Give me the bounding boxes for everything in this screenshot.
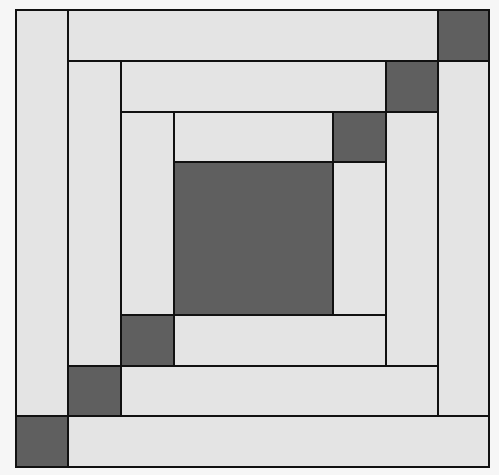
quilt-piece-ring2-bottom-left-square [67, 365, 122, 417]
quilt-piece-ring3-left [15, 9, 69, 417]
quilt-piece-ring1-bottom [173, 314, 387, 367]
quilt-piece-ring3-top-right-square [437, 9, 490, 62]
quilt-piece-ring3-bottom [67, 415, 490, 468]
quilt-piece-center [173, 161, 334, 316]
quilt-piece-ring1-bottom-left-square [120, 314, 175, 367]
quilt-piece-ring3-top [67, 9, 439, 62]
quilt-piece-ring2-top [120, 60, 387, 113]
quilt-piece-ring1-left [120, 111, 175, 316]
quilt-piece-ring2-bottom [120, 365, 439, 417]
quilt-piece-ring1-top-right-square [332, 111, 387, 163]
quilt-piece-ring2-left [67, 60, 122, 367]
quilt-piece-ring3-right [437, 60, 490, 468]
quilt-piece-ring1-top [173, 111, 334, 163]
quilt-piece-ring3-bottom-left-square [15, 415, 69, 468]
quilt-block-diagram [0, 0, 499, 475]
quilt-piece-ring2-top-right-square [385, 60, 439, 113]
